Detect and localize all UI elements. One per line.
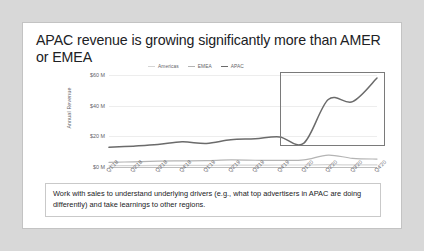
legend-swatch-icon — [188, 66, 195, 68]
legend-item-emea[interactable]: EMEA — [188, 64, 212, 69]
legend-item-americas[interactable]: Americas — [148, 64, 179, 69]
plot-area — [109, 75, 377, 167]
x-axis-line — [109, 167, 377, 168]
page-title: APAC revenue is growing significantly mo… — [36, 32, 388, 65]
y-tick-label: $20 M — [69, 133, 105, 139]
y-tick-label: $0 M — [69, 164, 105, 170]
legend-label: APAC — [231, 64, 244, 69]
y-tick-label: $40 M — [69, 103, 105, 109]
legend-swatch-icon — [221, 66, 228, 68]
legend-swatch-icon — [148, 66, 155, 68]
legend-item-apac[interactable]: APAC — [221, 64, 244, 69]
takeaway-text: Work with sales to understand underlying… — [53, 189, 373, 210]
apac-highlight-box — [280, 72, 385, 146]
chart-legend: AmericasEMEAAPAC — [148, 64, 244, 69]
slide-frame: APAC revenue is growing significantly mo… — [22, 22, 402, 229]
line-series-americas — [109, 165, 377, 166]
takeaway-callout: Work with sales to understand underlying… — [45, 183, 381, 217]
legend-label: EMEA — [198, 64, 212, 69]
revenue-line-chart: Annual Revenue $0 M$20 M$40 M$60 M Q1'18… — [69, 75, 385, 200]
y-tick-label: $60 M — [69, 72, 105, 78]
legend-label: Americas — [158, 64, 179, 69]
